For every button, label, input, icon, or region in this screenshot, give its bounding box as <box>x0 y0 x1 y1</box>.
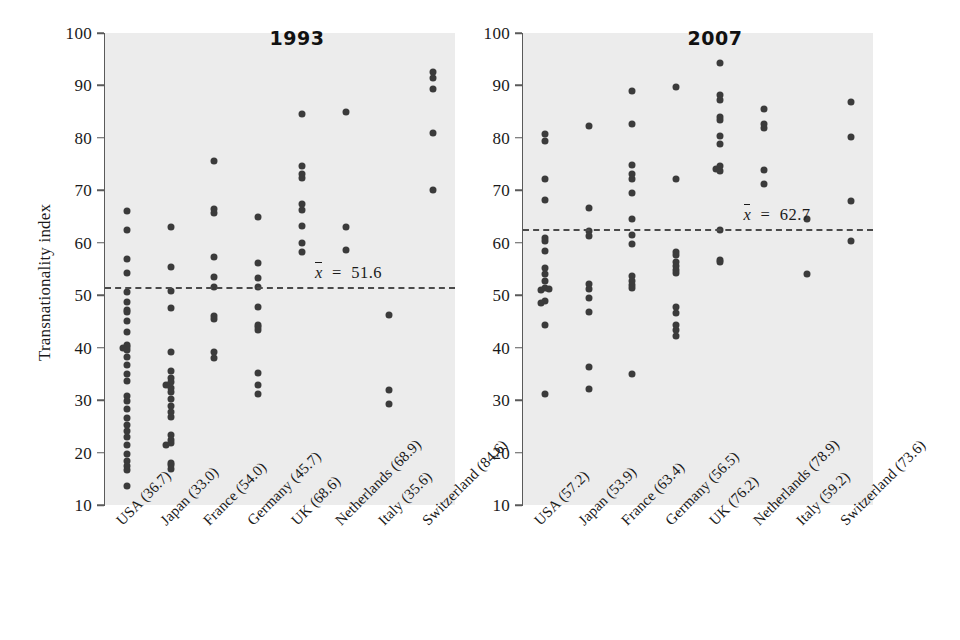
data-point <box>629 241 636 248</box>
data-point <box>255 275 262 282</box>
data-point <box>123 483 130 490</box>
data-point <box>629 215 636 222</box>
data-point <box>123 346 130 353</box>
y-axis-tick <box>97 137 104 139</box>
data-point <box>673 270 680 277</box>
data-point <box>298 174 305 181</box>
chart-panel-2007: 1020304050607080901002007x = 62.7USA (57… <box>478 0 960 640</box>
data-point <box>546 286 553 293</box>
data-point <box>123 467 130 474</box>
data-point <box>167 466 174 473</box>
y-axis-tick-label: 60 <box>74 234 92 251</box>
chart-panel-1993: 102030405060708090100Transnationality in… <box>0 0 478 640</box>
data-point <box>629 88 636 95</box>
y-axis-tick <box>515 32 522 34</box>
data-point <box>430 74 437 81</box>
data-point <box>298 222 305 229</box>
y-axis-tick <box>97 32 104 34</box>
data-point <box>255 304 262 311</box>
mean-value: 51.6 <box>351 263 382 282</box>
data-point <box>760 180 767 187</box>
y-axis-tick <box>97 452 104 454</box>
data-point <box>629 284 636 291</box>
y-axis-tick-label: 60 <box>492 234 510 251</box>
y-axis-tick <box>515 85 522 87</box>
y-axis-tick-label: 50 <box>74 287 92 304</box>
data-point <box>716 59 723 66</box>
data-point <box>123 433 130 440</box>
data-point <box>673 310 680 317</box>
data-point <box>629 176 636 183</box>
data-point <box>163 441 170 448</box>
data-point <box>386 387 393 394</box>
data-point <box>123 208 130 215</box>
y-axis-tick-label: 20 <box>492 444 510 461</box>
y-axis-tick <box>515 190 522 192</box>
data-point <box>298 248 305 255</box>
data-point <box>255 390 262 397</box>
data-point <box>716 97 723 104</box>
data-point <box>298 162 305 169</box>
data-point <box>848 238 855 245</box>
y-axis-tick-label: 80 <box>492 129 510 146</box>
y-axis-tick-label: 70 <box>74 182 92 199</box>
data-point <box>123 226 130 233</box>
y-axis-tick <box>515 347 522 349</box>
data-point <box>585 205 592 212</box>
panel-title: 2007 <box>688 27 743 49</box>
plot-area <box>105 33 455 505</box>
data-point <box>716 132 723 139</box>
data-point <box>541 277 548 284</box>
data-point <box>541 248 548 255</box>
data-point <box>716 141 723 148</box>
y-axis-tick <box>515 242 522 244</box>
y-axis-tick-label: 10 <box>74 497 92 514</box>
data-point <box>123 370 130 377</box>
y-axis-tick <box>97 190 104 192</box>
y-axis-tick-label: 80 <box>74 129 92 146</box>
data-point <box>123 354 130 361</box>
data-point <box>167 224 174 231</box>
data-point <box>123 328 130 335</box>
y-axis-tick-label: 100 <box>484 25 510 42</box>
y-axis-line <box>104 33 106 506</box>
data-point <box>123 406 130 413</box>
data-point <box>298 239 305 246</box>
data-point <box>585 364 592 371</box>
data-point <box>673 176 680 183</box>
data-point <box>537 286 544 293</box>
data-point <box>585 233 592 240</box>
panel-title: 1993 <box>270 27 325 49</box>
y-axis-tick <box>515 504 522 506</box>
data-point <box>211 157 218 164</box>
data-point <box>167 396 174 403</box>
data-point <box>255 260 262 267</box>
data-point <box>211 316 218 323</box>
mean-line <box>105 287 455 289</box>
data-point <box>298 111 305 118</box>
data-point <box>211 210 218 217</box>
y-axis-tick <box>97 294 104 296</box>
mean-label: x = 62.7 <box>744 205 811 225</box>
data-point <box>585 386 592 393</box>
data-point <box>255 382 262 389</box>
data-point <box>342 108 349 115</box>
data-point <box>629 232 636 239</box>
y-axis-tick <box>97 85 104 87</box>
data-point <box>848 133 855 140</box>
data-point <box>386 312 393 319</box>
data-point <box>629 120 636 127</box>
data-point <box>123 269 130 276</box>
data-point <box>848 99 855 106</box>
data-point <box>585 309 592 316</box>
data-point <box>211 254 218 261</box>
data-point <box>629 190 636 197</box>
mean-value: 62.7 <box>780 205 811 224</box>
data-point <box>123 378 130 385</box>
data-point <box>716 168 723 175</box>
data-point <box>541 321 548 328</box>
y-axis-tick <box>515 294 522 296</box>
data-point <box>848 197 855 204</box>
data-point <box>211 355 218 362</box>
data-point <box>716 114 723 121</box>
